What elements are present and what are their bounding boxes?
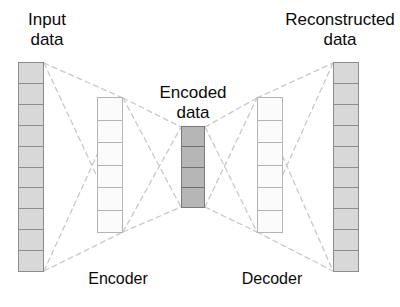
layer-unit	[98, 211, 122, 233]
layer-unit	[19, 147, 43, 168]
output-layer	[333, 62, 359, 272]
layer-unit	[182, 147, 204, 167]
layer-unit	[19, 126, 43, 147]
layer-unit	[258, 188, 282, 211]
layer-unit	[334, 188, 358, 209]
layer-unit	[182, 168, 204, 188]
layer-unit	[334, 105, 358, 126]
decoder-label: Decoder	[212, 270, 332, 289]
layer-unit	[98, 98, 122, 121]
layer-unit	[334, 147, 358, 168]
layer-unit	[182, 127, 204, 147]
link-decoder-to-output-bottom	[257, 232, 333, 271]
layer-unit	[334, 209, 358, 230]
encoder-label: Encoder	[58, 270, 178, 289]
link-encoder-to-encoded-cross2	[123, 127, 181, 232]
layer-unit	[334, 126, 358, 147]
decoder-hidden-layer	[257, 97, 283, 233]
autoencoder-diagram: Input data Encoded data Reconstructed da…	[0, 0, 400, 307]
link-input-to-encoder-bottom	[44, 232, 123, 271]
layer-unit	[334, 230, 358, 251]
encoded-data-label: Encoded data	[138, 83, 248, 122]
layer-unit	[98, 143, 122, 166]
input-data-label: Input data	[0, 10, 102, 49]
layer-unit	[182, 188, 204, 207]
layer-unit	[98, 188, 122, 211]
encoded-layer	[181, 126, 205, 208]
layer-unit	[98, 121, 122, 144]
layer-unit	[19, 63, 43, 84]
layer-unit	[258, 98, 282, 121]
layer-unit	[334, 63, 358, 84]
link-input-to-encoder-top	[44, 63, 123, 98]
link-encoded-to-decoder-cross1	[205, 127, 257, 232]
layer-unit	[19, 209, 43, 230]
layer-unit	[19, 251, 43, 271]
input-layer	[18, 62, 44, 272]
layer-unit	[334, 168, 358, 189]
layer-unit	[19, 230, 43, 251]
layer-unit	[258, 121, 282, 144]
link-encoded-to-decoder-bottom	[205, 207, 257, 232]
layer-unit	[258, 211, 282, 233]
layer-unit	[98, 166, 122, 189]
reconstructed-data-label: Reconstructed data	[280, 10, 400, 49]
layer-unit	[334, 84, 358, 105]
link-decoder-to-output-top	[257, 63, 333, 98]
layer-unit	[258, 143, 282, 166]
layer-unit	[258, 166, 282, 189]
link-encoder-to-encoded-bottom	[123, 207, 181, 232]
layer-unit	[19, 188, 43, 209]
layer-unit	[19, 84, 43, 105]
layer-unit	[334, 251, 358, 271]
layer-unit	[19, 105, 43, 126]
layer-unit	[19, 168, 43, 189]
encoder-hidden-layer	[97, 97, 123, 233]
